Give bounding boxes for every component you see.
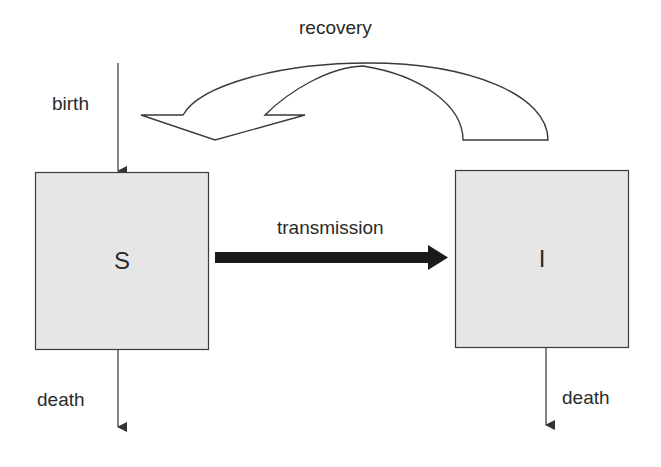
recovery-label: recovery — [299, 17, 372, 39]
recovery-arrow — [141, 63, 548, 140]
death-label-i: death — [562, 387, 610, 409]
compartment-i-label: I — [539, 245, 546, 273]
death-label-s: death — [37, 389, 85, 411]
birth-label: birth — [52, 93, 89, 115]
transmission-arrow — [215, 245, 448, 270]
compartment-s-label: S — [114, 247, 130, 275]
transmission-label: transmission — [277, 217, 384, 239]
